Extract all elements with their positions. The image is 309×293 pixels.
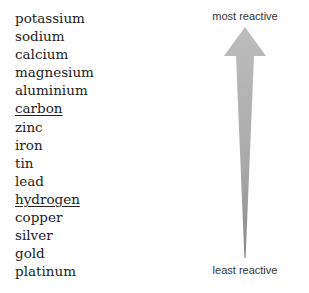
up-arrow-icon xyxy=(0,0,309,293)
least-reactive-label: least reactive xyxy=(213,264,278,276)
